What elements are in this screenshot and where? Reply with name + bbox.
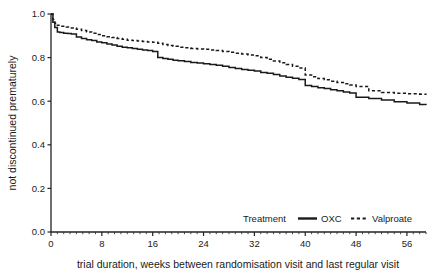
data-series-group	[51, 14, 426, 105]
y-tick-label: 0.8	[32, 52, 45, 63]
y-axis-title: not discontinued prematurely	[6, 55, 18, 191]
x-axis-tick-labels: 08162432404856	[48, 238, 412, 249]
x-tick-label: 0	[48, 238, 53, 249]
y-tick-label: 1.0	[32, 8, 45, 19]
chart-canvas: 0.00.20.40.60.81.0 08162432404856 Treatm…	[0, 0, 434, 279]
series-line-valproate	[51, 14, 426, 95]
x-tick-label: 24	[198, 238, 209, 249]
x-tick-label: 48	[351, 238, 362, 249]
y-tick-label: 0.6	[32, 96, 45, 107]
x-axis: 08162432404856	[48, 232, 426, 249]
series-line-oxc	[51, 14, 426, 105]
legend-label-valproate: Valproate	[372, 213, 412, 224]
x-tick-label: 56	[402, 238, 413, 249]
legend-title: Treatment	[243, 213, 286, 224]
y-axis-tick-labels: 0.00.20.40.60.81.0	[32, 8, 45, 237]
x-axis-title: trial duration, weeks between randomisat…	[77, 258, 399, 270]
legend: Treatment OXC Valproate	[243, 213, 412, 224]
y-tick-label: 0.2	[32, 183, 45, 194]
y-tick-label: 0.4	[32, 139, 45, 150]
x-tick-label: 40	[300, 238, 311, 249]
x-tick-label: 16	[147, 238, 158, 249]
kaplan-meier-chart: 0.00.20.40.60.81.0 08162432404856 Treatm…	[0, 0, 434, 279]
x-tick-label: 32	[249, 238, 260, 249]
y-axis: 0.00.20.40.60.81.0	[32, 8, 51, 237]
x-tick-label: 8	[99, 238, 104, 249]
y-tick-label: 0.0	[32, 226, 45, 237]
legend-label-oxc: OXC	[321, 213, 342, 224]
